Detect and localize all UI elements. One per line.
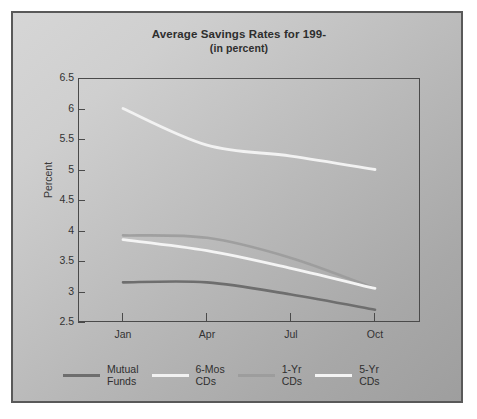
legend-label-line2: CDs: [359, 375, 379, 387]
chart-subtitle: (in percent): [13, 41, 465, 55]
legend-label: 5-YrCDs: [359, 363, 379, 387]
legend-item[interactable]: MutualFunds: [63, 363, 139, 387]
series-line: [123, 281, 375, 309]
legend-swatch: [152, 374, 189, 377]
y-tick-label: 3.5: [34, 254, 74, 266]
legend-label-line2: CDs: [282, 375, 302, 387]
chart-title: Average Savings Rates for 199-: [13, 27, 465, 41]
y-tick-label: 2.5: [34, 315, 74, 327]
chart-card: Average Savings Rates for 199- (in perce…: [11, 11, 463, 403]
legend-label-line1: Mutual: [107, 363, 139, 375]
y-tick-mark: [78, 322, 85, 323]
chart-legend: MutualFunds6-MosCDs1-YrCDs5-YrCDs: [63, 363, 443, 397]
legend-item[interactable]: 6-MosCDs: [152, 363, 225, 387]
x-tick-label: Jul: [261, 328, 321, 340]
legend-label: 1-YrCDs: [282, 363, 302, 387]
y-tick-label: 5: [34, 163, 74, 175]
series-line: [123, 109, 375, 170]
y-tick-label: 6.5: [34, 71, 74, 83]
y-tick-label: 5.5: [34, 132, 74, 144]
chart-title-block: Average Savings Rates for 199- (in perce…: [13, 27, 465, 55]
legend-swatch: [315, 374, 352, 377]
legend-label-line1: 1-Yr: [282, 363, 302, 375]
x-tick-label: Oct: [345, 328, 405, 340]
legend-label-line2: CDs: [196, 375, 225, 387]
y-tick-label: 3: [34, 285, 74, 297]
legend-swatch: [63, 374, 100, 377]
y-tick-label: 4: [34, 224, 74, 236]
legend-item[interactable]: 1-YrCDs: [238, 363, 302, 387]
legend-label-line1: 5-Yr: [359, 363, 379, 375]
legend-item[interactable]: 5-YrCDs: [315, 363, 379, 387]
legend-label: 6-MosCDs: [196, 363, 225, 387]
y-tick-label: 6: [34, 102, 74, 114]
legend-swatch: [238, 374, 275, 377]
legend-label-line1: 6-Mos: [196, 363, 225, 375]
legend-label: MutualFunds: [107, 363, 139, 387]
x-tick-label: Jan: [93, 328, 153, 340]
plot-area: Percent 6.565.554.543.532.5 JanAprJulOct: [78, 78, 420, 322]
legend-label-line2: Funds: [107, 375, 139, 387]
x-tick-label: Apr: [177, 328, 237, 340]
series-lines: [78, 78, 420, 322]
y-tick-label: 4.5: [34, 193, 74, 205]
